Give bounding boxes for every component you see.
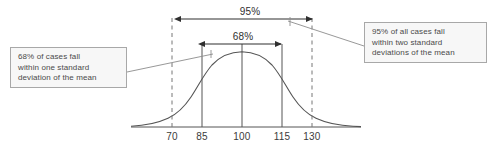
leader-line-left: [127, 54, 213, 72]
callout-box-left: 68% of cases fall within one standard de…: [10, 47, 127, 88]
bell-curve-path: [131, 52, 361, 127]
x-axis-tick-label-85: 85: [187, 131, 217, 142]
leader-line-right: [288, 21, 364, 46]
x-axis-tick-label-70: 70: [157, 131, 187, 142]
figure-canvas: 95% 68% 70 85 100 115 130 68% of cases f…: [0, 0, 496, 153]
span-label-95: 95%: [230, 6, 270, 17]
x-axis-tick-label-115: 115: [267, 131, 297, 142]
x-axis-tick-label-100: 100: [227, 131, 257, 142]
x-axis-tick-label-130: 130: [297, 131, 327, 142]
span-label-68: 68%: [223, 31, 263, 42]
callout-box-right: 95% of all cases fall within two standar…: [364, 22, 487, 63]
